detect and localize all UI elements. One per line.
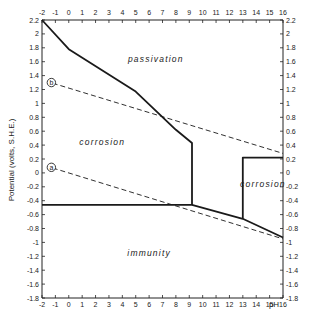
bottom-tick-label: 12 (226, 301, 234, 308)
top-tick-label: 8 (174, 9, 178, 16)
top-tick-label: 5 (134, 9, 138, 16)
bottom-tick-label: 7 (161, 301, 165, 308)
left-tick-label: -0.4 (27, 197, 39, 204)
top-tick-label: 0 (67, 9, 71, 16)
left-tick-label: 2.2 (29, 17, 39, 24)
top-tick-label: 1 (80, 9, 84, 16)
right-tick-label: -1.8 (286, 295, 298, 302)
left-tick-label: -1 (33, 239, 39, 246)
line-markers: ba (47, 78, 55, 171)
bottom-tick-label: -2 (39, 301, 45, 308)
left-tick-label: -0.8 (27, 225, 39, 232)
bottom-tick-label: 5 (134, 301, 138, 308)
right-tick-label: 0.8 (286, 114, 296, 121)
region-labels: passivationcorrosioncorrosionimmunity (79, 54, 285, 259)
pourbaix-diagram: -2-2-1-100112233445566778899101011111212… (0, 0, 311, 319)
right-tick-label: 2.2 (286, 17, 296, 24)
bottom-tick-label: 9 (187, 301, 191, 308)
top-tick-label: 16 (279, 9, 287, 16)
right-tick-label: -0.2 (286, 183, 298, 190)
left-tick-label: 1.2 (29, 86, 39, 93)
top-tick-label: 13 (239, 9, 247, 16)
left-tick-label: 1 (35, 100, 39, 107)
right-tick-label: -1.2 (286, 253, 298, 260)
bottom-tick-label: 14 (252, 301, 260, 308)
bottom-tick-label: 4 (120, 301, 124, 308)
left-tick-label: 0.8 (29, 114, 39, 121)
right-tick-label: 0.2 (286, 156, 296, 163)
top-tick-label: 11 (212, 9, 219, 16)
top-tick-label: 14 (252, 9, 260, 16)
top-tick-label: 9 (187, 9, 191, 16)
right-tick-label: 1.2 (286, 86, 296, 93)
right-tick-label: -0.6 (286, 211, 298, 218)
top-tick-label: 12 (226, 9, 234, 16)
bottom-tick-label: 10 (199, 301, 207, 308)
right-tick-label: 2 (286, 30, 290, 37)
left-tick-label: 1.8 (29, 44, 39, 51)
top-tick-label: -2 (39, 9, 45, 16)
region-label-corrosion: corrosion (79, 137, 125, 147)
right-tick-label: 1 (286, 100, 290, 107)
left-tick-label: -0.6 (27, 211, 39, 218)
left-tick-label: -1.8 (27, 295, 39, 302)
top-tick-label: 4 (120, 9, 124, 16)
left-tick-label: 1.6 (29, 58, 39, 65)
bottom-tick-label: 6 (147, 301, 151, 308)
top-tick-label: -1 (52, 9, 58, 16)
marker-label-b: b (49, 79, 53, 86)
top-tick-label: 10 (199, 9, 207, 16)
left-tick-label: -0.2 (27, 183, 39, 190)
bottom-tick-label: 2 (94, 301, 98, 308)
right-tick-label: 0 (286, 169, 290, 176)
left-tick-label: 0 (35, 169, 39, 176)
x-axis-title: pH (269, 300, 279, 309)
right-tick-label: -1.4 (286, 267, 298, 274)
bottom-tick-label: 3 (107, 301, 111, 308)
right-tick-label: 1.8 (286, 44, 296, 51)
top-tick-label: 7 (161, 9, 165, 16)
right-tick-label: 1.4 (286, 72, 296, 79)
right-tick-label: -0.4 (286, 197, 298, 204)
bottom-tick-label: 11 (212, 301, 219, 308)
left-tick-label: -1.4 (27, 267, 39, 274)
left-tick-label: 2 (35, 30, 39, 37)
bottom-tick-label: -1 (52, 301, 58, 308)
left-tick-label: -1.6 (27, 281, 39, 288)
y-axis-title: Potential (volts, S.H.E.) (7, 118, 16, 201)
bottom-tick-label: 16 (279, 301, 287, 308)
top-tick-label: 6 (147, 9, 151, 16)
region-label-passivation: passivation (127, 54, 184, 64)
left-tick-label: -1.2 (27, 253, 39, 260)
region-label-corrosion: corrosion (240, 179, 286, 189)
left-tick-label: 0.4 (29, 142, 39, 149)
left-tick-label: 0.6 (29, 128, 39, 135)
solid-boundary-line (42, 205, 283, 238)
right-tick-label: 0.6 (286, 128, 296, 135)
top-tick-label: 15 (266, 9, 274, 16)
bottom-tick-label: 13 (239, 301, 247, 308)
right-tick-label: -0.8 (286, 225, 298, 232)
bottom-tick-label: 1 (80, 301, 84, 308)
right-tick-label: -1 (286, 239, 292, 246)
left-tick-label: 0.2 (29, 156, 39, 163)
right-tick-label: 0.4 (286, 142, 296, 149)
region-label-immunity: immunity (127, 248, 171, 258)
bottom-tick-label: 8 (174, 301, 178, 308)
top-tick-label: 2 (94, 9, 98, 16)
right-tick-label: 1.6 (286, 58, 296, 65)
bottom-tick-label: 0 (67, 301, 71, 308)
top-tick-label: 3 (107, 9, 111, 16)
left-tick-label: 1.4 (29, 72, 39, 79)
marker-label-a: a (49, 164, 53, 171)
right-tick-label: -1.6 (286, 281, 298, 288)
solid-boundary-line (42, 20, 192, 205)
